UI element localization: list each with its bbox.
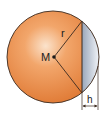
center-label: M [41,51,50,63]
arrow-head-left-icon [83,105,86,108]
radius-label: r [61,27,65,39]
center-point [52,55,56,59]
arrow-head-right-icon [95,105,98,108]
spherical-cap [82,0,106,118]
cap-height-label: h [87,94,93,105]
spherical-cap-diagram: M r h [0,0,106,118]
